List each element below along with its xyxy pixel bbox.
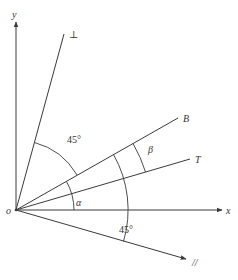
ray-B xyxy=(16,118,178,210)
angle-label-perp-B: 45° xyxy=(67,134,81,145)
perpendicular-label: ⊥ xyxy=(69,29,78,40)
origin-point xyxy=(15,209,18,212)
ray-T-label: T xyxy=(195,154,202,165)
ray-B-label: B xyxy=(183,113,189,124)
origin-label: o xyxy=(6,205,11,216)
angle-label-beta: β xyxy=(147,144,153,155)
angle-diagram: y x ⊥ B T // 45° β α 45° o xyxy=(0,0,238,280)
ray-T xyxy=(16,159,190,210)
angle-arc-beta xyxy=(133,144,146,173)
y-axis-label: y xyxy=(11,9,17,20)
angle-label-alpha: α xyxy=(76,197,82,208)
x-axis-label: x xyxy=(225,205,231,216)
perpendicular-ray xyxy=(16,34,64,210)
angle-arc-alpha xyxy=(67,182,75,211)
angle-label-B-parallel: 45° xyxy=(119,224,133,235)
parallel-label: // xyxy=(191,257,199,268)
parallel-ray xyxy=(16,210,186,259)
angle-arc-perp-B xyxy=(35,143,78,176)
